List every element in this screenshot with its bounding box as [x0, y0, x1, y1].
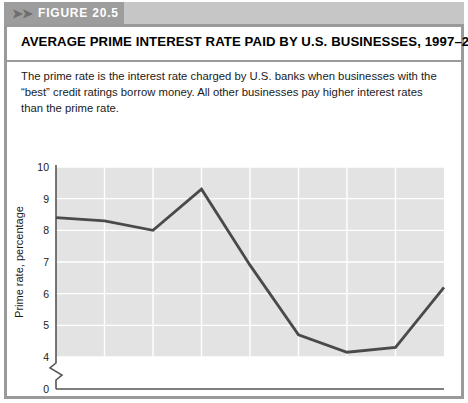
y-tick-9: 9: [43, 193, 49, 205]
x-tick-labels: 1997 1998 1999 2000 2001 2002 2003 2004 …: [44, 394, 456, 396]
x-tick-1997: 1997: [44, 394, 68, 396]
x-tick-2004: 2004: [384, 394, 408, 396]
x-tick-2002: 2002: [287, 394, 311, 396]
x-tick-1999: 1999: [141, 394, 165, 396]
y-axis-title: Prime rate, percentage: [13, 206, 25, 318]
y-tick-10: 10: [37, 161, 49, 173]
figure-number-badge: ➤➤ FIGURE 20.5: [4, 2, 124, 24]
y-tick-4: 4: [43, 351, 49, 363]
x-tick-2001: 2001: [238, 394, 262, 396]
x-tick-2000: 2000: [190, 394, 214, 396]
double-chevron-right-icon: ➤➤: [12, 7, 32, 20]
figure-caption: The prime rate is the interest rate char…: [21, 68, 441, 116]
y-tick-8: 8: [43, 224, 49, 236]
figure-card: AVERAGE PRIME INTEREST RATE PAID BY U.S.…: [4, 24, 464, 399]
y-tick-7: 7: [43, 256, 49, 268]
x-tick-2005: 2005: [432, 394, 456, 396]
figure-number-band: ➤➤ FIGURE 20.5: [4, 2, 464, 24]
y-tick-labels: 10 9 8 7 6 5 4 0: [37, 161, 49, 395]
x-tick-1998: 1998: [93, 394, 117, 396]
chart-svg: 10 9 8 7 6 5 4 0 1997 1998 1999 2000 200…: [7, 123, 461, 396]
figure-title: AVERAGE PRIME INTEREST RATE PAID BY U.S.…: [21, 34, 451, 49]
x-tick-2003: 2003: [335, 394, 359, 396]
axis-break-icon: [50, 359, 62, 384]
figure-container: ➤➤ FIGURE 20.5 AVERAGE PRIME INTEREST RA…: [0, 0, 468, 403]
figure-number-label: FIGURE 20.5: [38, 7, 119, 19]
y-tick-5: 5: [43, 319, 49, 331]
line-chart: 10 9 8 7 6 5 4 0 1997 1998 1999 2000 200…: [7, 123, 461, 396]
y-tick-6: 6: [43, 288, 49, 300]
title-divider: [7, 60, 461, 62]
